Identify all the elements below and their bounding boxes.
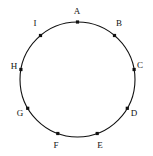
point-label-e: E	[97, 141, 103, 150]
point-marker-e	[96, 132, 99, 135]
point-marker-h	[19, 68, 22, 71]
point-label-a: A	[74, 7, 81, 16]
point-label-f: F	[53, 141, 58, 150]
diagram-canvas	[0, 0, 153, 156]
circle-diagram: ABCDEFGHI	[0, 0, 153, 156]
point-marker-f	[56, 132, 59, 135]
point-marker-b	[113, 34, 116, 37]
point-marker-d	[126, 107, 129, 110]
point-label-d: D	[131, 109, 138, 118]
point-label-i: I	[34, 19, 37, 28]
point-marker-a	[76, 20, 79, 23]
point-label-c: C	[137, 61, 143, 70]
point-label-b: B	[116, 19, 122, 28]
point-label-h: H	[11, 62, 18, 71]
point-label-g: G	[17, 109, 24, 118]
point-marker-i	[39, 34, 42, 37]
point-marker-g	[26, 107, 29, 110]
point-marker-c	[133, 68, 136, 71]
